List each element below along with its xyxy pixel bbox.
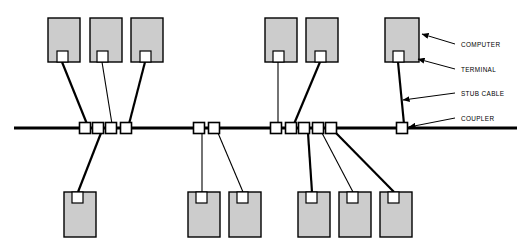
computer-node <box>306 18 338 62</box>
stub-cable <box>129 62 145 124</box>
coupler-box <box>121 123 132 134</box>
callout-arrow-icon <box>422 34 455 44</box>
callout-label-coupler: COUPLER <box>461 115 494 122</box>
coupler-box <box>326 123 337 134</box>
stub-cable <box>398 62 404 124</box>
callout-arrow-icon <box>409 118 455 127</box>
stub-cable <box>62 62 87 124</box>
callout-stub-cable: STUB CABLE <box>403 90 504 100</box>
stub-cable <box>308 133 312 192</box>
computer-node <box>64 192 96 237</box>
callout-arrow-icon <box>403 93 455 100</box>
stub-cable <box>102 62 112 124</box>
computer-node <box>385 18 419 62</box>
terminal-box <box>388 192 399 203</box>
callout-arrow-icon <box>418 59 455 69</box>
stub-cable <box>218 133 243 192</box>
terminal-box <box>97 51 108 62</box>
terminal-box <box>140 51 151 62</box>
diagram-canvas: COMPUTERTERMINALSTUB CABLECOUPLER <box>0 0 531 248</box>
terminal-box <box>196 192 207 203</box>
computer-node <box>298 192 330 237</box>
coupler-box <box>106 123 117 134</box>
coupler-box <box>397 123 408 134</box>
terminal-box <box>306 192 317 203</box>
terminal-box <box>72 192 83 203</box>
terminal-box <box>273 51 284 62</box>
stub-cable <box>294 62 320 124</box>
network-topology-diagram: COMPUTERTERMINALSTUB CABLECOUPLER <box>0 0 531 248</box>
computer-node <box>188 192 220 237</box>
stub-cable <box>322 133 353 192</box>
coupler-box <box>271 123 282 134</box>
coupler-box <box>209 123 220 134</box>
terminal-box <box>315 51 326 62</box>
computer-node <box>131 18 163 62</box>
computer-node <box>380 192 412 237</box>
computer-node <box>339 192 371 237</box>
coupler-box <box>286 123 297 134</box>
terminal-box <box>393 51 404 62</box>
coupler-box <box>80 123 91 134</box>
coupler-box <box>313 123 324 134</box>
callout-label-computer: COMPUTER <box>461 41 500 48</box>
callout-terminal: TERMINAL <box>418 59 496 73</box>
coupler-box <box>93 123 104 134</box>
computer-node <box>229 192 261 237</box>
terminal-box <box>347 192 358 203</box>
callout-label-terminal: TERMINAL <box>461 66 496 73</box>
stub-cable <box>78 133 101 192</box>
callout-label-stub-cable: STUB CABLE <box>461 90 504 97</box>
coupler-box <box>194 123 205 134</box>
terminal-box <box>237 192 248 203</box>
computer-node <box>48 18 80 62</box>
computer-node <box>265 18 297 62</box>
computer-node <box>90 18 122 62</box>
callout-computer: COMPUTER <box>422 34 500 48</box>
terminal-box <box>57 51 68 62</box>
stub-cable <box>336 133 394 192</box>
callout-coupler: COUPLER <box>409 115 494 127</box>
coupler-box <box>299 123 310 134</box>
